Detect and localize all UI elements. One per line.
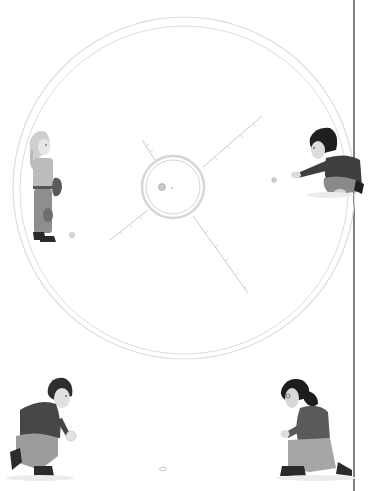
center-ring bbox=[142, 156, 204, 218]
measuring-spokes bbox=[110, 116, 262, 293]
boy-kneeling-bottom-left bbox=[6, 378, 76, 481]
boy-crouching-right bbox=[291, 128, 364, 198]
girl-standing-left bbox=[30, 131, 62, 242]
girl-kneeling-bottom-right bbox=[276, 379, 356, 481]
chalk-ring bbox=[13, 17, 355, 359]
marbles-illustration bbox=[0, 0, 368, 491]
marbles bbox=[70, 178, 277, 471]
